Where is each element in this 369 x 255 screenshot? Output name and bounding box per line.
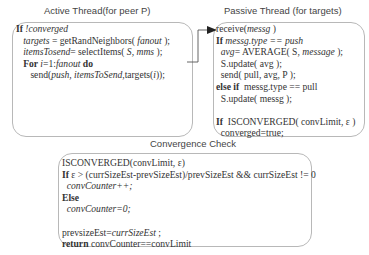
code-token: convCounter==convLimit [91, 238, 191, 249]
code-line: convCounter++; [62, 180, 316, 192]
arrowhead-icon [207, 26, 217, 34]
code-token: If [62, 169, 71, 180]
code-token: ISCONVERGED(convLimit, ε) [62, 157, 185, 168]
code-token: return [62, 238, 91, 249]
code-token: convCounter=0; [67, 203, 131, 214]
code-token: Else [62, 192, 79, 203]
code-line: prevsizeEst=currSizeEst ; [62, 227, 316, 239]
convergence-check-code: ISCONVERGED(convLimit, ε)If ε > (currSiz… [62, 157, 316, 250]
code-token: prevsizeEst= [62, 227, 112, 238]
code-token: currSizeEst [112, 227, 156, 238]
code-line: convCounter=0; [62, 203, 316, 215]
code-line: Else [62, 192, 316, 204]
code-line: If ε > (currSizeEst-prevSizeEst)/prevSiz… [62, 169, 316, 181]
connector-line [187, 30, 207, 62]
code-line: ISCONVERGED(convLimit, ε) [62, 157, 316, 169]
code-token: convCounter++; [67, 180, 133, 191]
code-token: ; [156, 227, 161, 238]
code-line: return convCounter==convLimit [62, 238, 316, 250]
convergence-check-title: Convergence Check [150, 138, 236, 149]
code-token: ε > (currSizeEst-prevSizeEst)/prevSizeEs… [71, 169, 316, 180]
code-line [62, 215, 316, 227]
